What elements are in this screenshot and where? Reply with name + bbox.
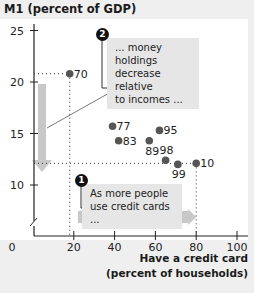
x-axis-label-line2: (percent of households) (106, 266, 248, 281)
svg-text:89: 89 (145, 145, 159, 158)
svg-text:83: 83 (123, 135, 137, 148)
svg-text:99: 99 (172, 168, 186, 181)
svg-text:98: 98 (160, 144, 174, 157)
annotation-1: As more people use credit cards ... (82, 184, 182, 229)
annotation-1-badge: 1 (75, 174, 88, 187)
annotation-2-badge: 2 (96, 28, 109, 41)
data-point (145, 137, 153, 145)
data-point (162, 156, 170, 164)
svg-text:20: 20 (10, 76, 24, 89)
x-axis-label: Have a credit card (percent of household… (106, 251, 248, 281)
svg-text:10: 10 (200, 157, 214, 170)
data-point (156, 127, 164, 135)
svg-text:95: 95 (163, 124, 177, 137)
svg-text:70: 70 (74, 68, 88, 81)
data-point (66, 70, 74, 78)
vertical-arrow (38, 84, 46, 160)
svg-text:15: 15 (10, 128, 24, 141)
annotation-1-line2: use credit cards ... (90, 200, 176, 226)
svg-text:25: 25 (10, 25, 24, 38)
data-point (115, 137, 123, 145)
svg-text:77: 77 (117, 120, 131, 133)
x-axis-label-line1: Have a credit card (106, 251, 248, 266)
svg-text:20: 20 (67, 241, 81, 254)
annotation-2-line2: decrease relative (115, 67, 193, 93)
svg-text:10: 10 (10, 179, 24, 192)
svg-text:0: 0 (9, 241, 16, 254)
annotation-2: ... money holdings decrease relative to … (107, 38, 199, 109)
annotation-2-line1: ... money holdings (115, 41, 193, 67)
annotation-2-line3: to incomes ... (115, 93, 193, 106)
data-point (174, 161, 182, 169)
data-point (192, 160, 200, 168)
data-point (109, 122, 117, 130)
annotation-1-line1: As more people (90, 187, 176, 200)
